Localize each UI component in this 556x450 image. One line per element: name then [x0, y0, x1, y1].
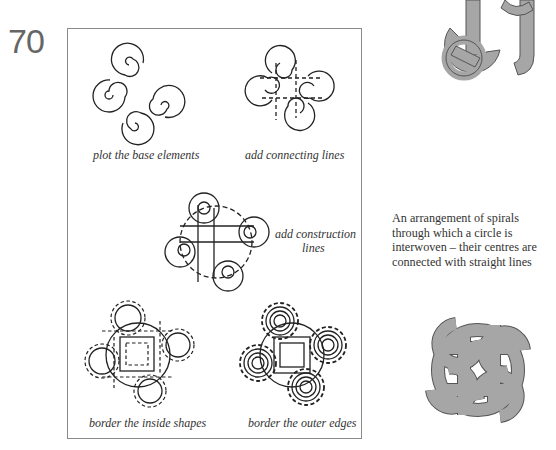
- step3-caption-line1: add construction: [275, 227, 356, 242]
- step1-caption: plot the base elements: [93, 148, 199, 163]
- step5-caption: border the outer edges: [248, 416, 357, 431]
- step4-border-inside-figure: [88, 303, 188, 403]
- page-number: 70: [8, 22, 44, 61]
- step2-connecting-lines-figure: [240, 38, 340, 138]
- step5-border-outer-figure: [240, 303, 350, 408]
- side-description-line: through which a circle is: [392, 226, 552, 241]
- step1-base-spirals-figure: [85, 35, 195, 145]
- partial-knot-illustration: [420, 0, 556, 100]
- side-description-line: connected with straight lines: [392, 255, 552, 270]
- side-description-line: interwoven – their centres are: [392, 240, 552, 255]
- side-description-line: An arrangement of spirals: [392, 211, 552, 226]
- completed-knot-illustration: [408, 300, 548, 440]
- step3-construction-lines-figure: [162, 190, 272, 295]
- step3-caption-line2: lines: [302, 241, 325, 256]
- step2-caption: add connecting lines: [245, 148, 344, 163]
- side-description: An arrangement of spirals through which …: [392, 211, 552, 269]
- step4-caption: border the inside shapes: [89, 416, 206, 431]
